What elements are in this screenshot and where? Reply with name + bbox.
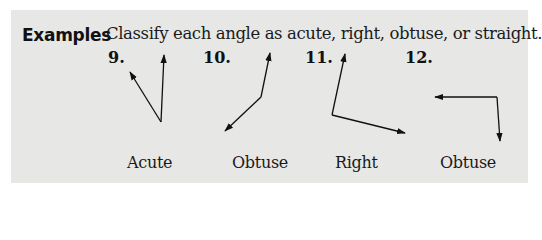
ray-arrow-icon (161, 55, 164, 122)
ray-arrow-icon (332, 115, 405, 133)
ray-arrow-icon (261, 53, 270, 97)
problem-12-answer: Obtuse (440, 153, 496, 172)
ray-arrow-icon (497, 97, 500, 141)
ray-arrow-icon (225, 97, 261, 131)
problem-9-answer: Acute (127, 153, 172, 172)
ray-arrow-icon (130, 72, 161, 122)
angle-figure-10 (225, 53, 270, 131)
problem-11-answer: Right (335, 153, 378, 172)
angle-figure-9 (130, 55, 164, 122)
problem-10-answer: Obtuse (232, 153, 288, 172)
ray-arrow-icon (332, 54, 345, 115)
angle-figure-12 (435, 97, 500, 141)
angle-figure-11 (332, 54, 405, 133)
